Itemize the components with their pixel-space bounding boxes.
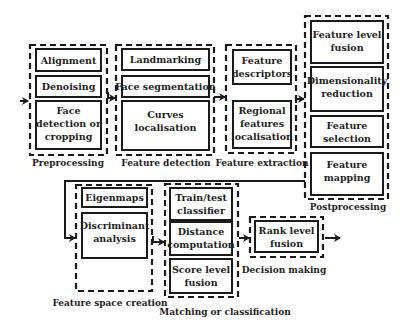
step-label: Face [56, 105, 80, 116]
group-label-preprocessing: Preprocessing [32, 158, 105, 168]
step-label: selection [323, 133, 371, 144]
group-feature-space-creation: Eigenmaps Discriminant analysis Feature … [52, 185, 168, 308]
step-label: detection or [36, 118, 102, 129]
group-label-postprocessing: Postprocessing [310, 202, 387, 212]
step-alignment: Alignment [36, 49, 101, 71]
step-distance-computation: Distance computation [167, 222, 235, 255]
step-label: Face segmentation [115, 81, 215, 92]
group-label-feature-detection: Feature detection [121, 158, 211, 168]
step-discriminant-analysis: Discriminant analysis [80, 213, 150, 258]
step-label: localisation [231, 131, 293, 142]
step-label: Distance [178, 226, 224, 237]
step-feature-level-fusion: Feature level fusion [311, 21, 383, 63]
step-label: mapping [324, 172, 371, 183]
step-label: Landmarking [130, 54, 202, 65]
step-label: reduction [321, 88, 373, 99]
step-label: Score level [172, 264, 231, 275]
group-label-feature-extraction: Feature extraction [215, 158, 309, 168]
group-postprocessing: Feature level fusion Dimensionality redu… [305, 16, 388, 212]
step-label: classifier [177, 205, 226, 216]
step-landmarking: Landmarking [122, 49, 209, 70]
step-label: Eigenmaps [85, 192, 144, 203]
face-recognition-pipeline-diagram: Alignment Denoising Face detection or cr… [0, 0, 409, 326]
step-rank-level-fusion: Rank level fusion [255, 221, 318, 252]
step-feature-mapping: Feature mapping [311, 153, 383, 195]
step-label: Train/test [175, 192, 227, 203]
step-dimensionality-reduction: Dimensionality reduction [307, 67, 388, 111]
step-label: features [240, 118, 284, 129]
step-regional-features-localisation: Regional features localisation [231, 101, 293, 148]
step-label: Feature [327, 159, 368, 170]
step-label: analysis [93, 233, 136, 244]
step-curves-localisation: Curves localisation [122, 101, 209, 150]
group-label-decision-making: Decision making [242, 265, 327, 275]
step-label: Curves [147, 109, 183, 120]
group-feature-detection: Landmarking Face segmentation Curves loc… [115, 45, 215, 168]
step-label: fusion [184, 277, 217, 288]
step-train-test-classifier: Train/test classifier [170, 188, 232, 220]
arrow-extraction-to-postprocessing [296, 99, 304, 103]
step-label: cropping [45, 131, 93, 142]
arrow-feature-space-to-matching [153, 236, 164, 242]
step-label: Feature level [313, 29, 382, 40]
group-decision-making: Rank level fusion Decision making [242, 217, 327, 275]
step-label: descriptors [232, 68, 292, 79]
group-label-feature-space-creation: Feature space creation [52, 298, 168, 308]
group-feature-extraction: Feature descriptors Regional features lo… [215, 45, 309, 168]
step-feature-selection: Feature selection [311, 116, 383, 147]
step-score-level-fusion: Score level fusion [170, 259, 232, 293]
group-preprocessing: Alignment Denoising Face detection or cr… [30, 45, 107, 168]
step-feature-descriptors: Feature descriptors [232, 50, 292, 84]
group-label-matching-or-classification: Matching or classification [159, 307, 291, 317]
step-label: Denoising [42, 81, 96, 92]
step-label: Feature [242, 55, 283, 66]
step-label: Dimensionality [307, 75, 388, 86]
step-label: fusion [270, 238, 303, 249]
step-label: Alignment [40, 55, 97, 66]
step-face-detection-or-cropping: Face detection or cropping [36, 101, 102, 149]
step-label: Feature [327, 120, 368, 131]
step-label: Regional [238, 105, 286, 116]
step-label: fusion [330, 42, 363, 53]
step-label: computation [167, 239, 235, 250]
step-denoising: Denoising [36, 76, 101, 97]
step-label: Rank level [259, 225, 315, 236]
arrow-preprocessing-to-detection [108, 92, 115, 98]
step-label: Discriminant [80, 220, 150, 231]
step-label: localisation [135, 122, 197, 133]
step-eigenmaps: Eigenmaps [82, 188, 147, 207]
step-face-segmentation: Face segmentation [115, 76, 215, 97]
